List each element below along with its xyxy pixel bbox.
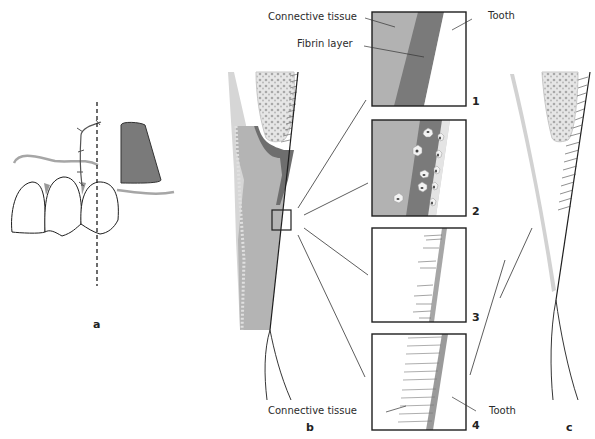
suture-line: [80, 122, 101, 186]
excised-tissue-flap: [121, 122, 161, 183]
stage-box-4: [372, 334, 466, 430]
stage-number-1: 1: [472, 95, 480, 108]
panel-label-c: c: [566, 421, 573, 434]
panel-c-illustration: [470, 72, 590, 400]
panel-label-b: b: [306, 421, 314, 434]
panel-label-a: a: [93, 318, 100, 331]
stage-number-3: 3: [472, 311, 480, 324]
label-connective-tissue-top: Connective tissue: [268, 11, 357, 23]
panel-a-illustration: [12, 102, 174, 286]
stage-box-2: [372, 120, 466, 216]
stage-box-3: [372, 228, 466, 322]
figure-canvas: [0, 0, 595, 439]
tooth-crown-2: [45, 177, 82, 236]
label-connective-tissue-bottom: Connective tissue: [268, 405, 357, 417]
label-tooth-top: Tooth: [488, 10, 515, 22]
stage-number-4: 4: [472, 419, 480, 432]
label-fibrin-layer: Fibrin layer: [297, 38, 353, 50]
stage-number-2: 2: [472, 205, 480, 218]
alveolar-bone: [256, 72, 294, 142]
tooth-crown-3: [81, 182, 119, 234]
label-tooth-bottom: Tooth: [489, 405, 516, 417]
tooth-crown-1: [12, 182, 46, 233]
alveolar-bone: [542, 72, 578, 142]
gingival-margin-line: [14, 156, 98, 165]
stage-box-1: [372, 12, 466, 106]
panel-b-illustration: [228, 72, 368, 400]
